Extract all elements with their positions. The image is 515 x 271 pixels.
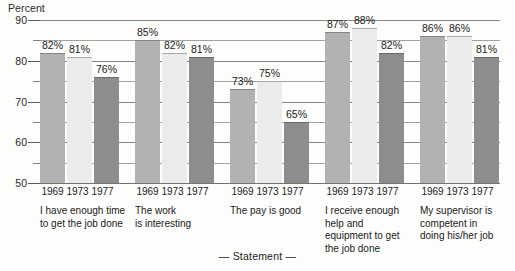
statement-line: The pay is good	[230, 205, 325, 218]
y-axis-tick-label: 60	[3, 137, 27, 148]
bar-1977-group2: 81%	[189, 57, 214, 183]
bar-1973-group4: 88%	[352, 28, 377, 183]
bar-fill	[189, 57, 214, 183]
bar-fill	[135, 40, 160, 183]
bar-value-label: 81%	[191, 44, 212, 55]
year-tick-labels: 196919731977	[40, 186, 135, 197]
statement-line: is interesting	[135, 218, 230, 231]
bar-1969-group3: 73%	[230, 89, 255, 183]
y-tick-90	[28, 20, 40, 21]
bar-fill	[162, 53, 187, 183]
bar-value-label: 86%	[449, 23, 470, 34]
bar-fill	[40, 53, 65, 183]
year-label: 1973	[65, 186, 90, 197]
bar-fill	[474, 57, 499, 183]
y-tick-50	[28, 183, 40, 184]
bar-value-label: 85%	[137, 27, 158, 38]
year-label: 1973	[445, 186, 470, 197]
y-axis-title: Percent	[8, 2, 45, 14]
bar-1973-group2: 82%	[162, 53, 187, 183]
year-tick-labels: 196919731977	[325, 186, 425, 197]
year-label: 1977	[185, 186, 210, 197]
x-group-label: 196919731977My supervisor iscompetent in…	[420, 186, 515, 243]
bar-1969-group4: 87%	[325, 32, 350, 183]
bar-value-label: 82%	[381, 40, 402, 51]
bar-group: 87%88%82%	[325, 20, 404, 183]
bar-value-label: 75%	[259, 68, 280, 79]
plot-area: 9080706050 82%81%76%85%82%81%73%75%65%87…	[40, 20, 500, 183]
bar-value-label: 81%	[476, 44, 497, 55]
bar-group: 86%86%81%	[420, 20, 499, 183]
year-label: 1973	[255, 186, 280, 197]
statement-line: competent in	[420, 218, 515, 231]
bar-fill	[379, 53, 404, 183]
bar-1977-group5: 81%	[474, 57, 499, 183]
bar-fill	[257, 81, 282, 183]
year-label: 1969	[40, 186, 65, 197]
bar-fill	[420, 36, 445, 183]
y-tick-minor-65	[33, 122, 40, 123]
year-label: 1977	[280, 186, 305, 197]
bar-1977-group4: 82%	[379, 53, 404, 183]
year-label: 1969	[420, 186, 445, 197]
statement-line: I have enough time	[40, 205, 135, 218]
year-tick-labels: 196919731977	[135, 186, 230, 197]
year-label: 1973	[160, 186, 185, 197]
statement-label: My supervisor iscompetent indoing his/he…	[420, 205, 515, 243]
y-axis-tick-label: 50	[3, 178, 27, 189]
year-label: 1977	[90, 186, 115, 197]
bar-1973-group5: 86%	[447, 36, 472, 183]
statement-line: doing his/her job	[420, 230, 515, 243]
bar-1977-group3: 65%	[284, 122, 309, 183]
bar-group: 85%82%81%	[135, 20, 214, 183]
y-tick-minor-55	[33, 163, 40, 164]
year-label: 1969	[230, 186, 255, 197]
statement-label: I have enough timeto get the job done	[40, 205, 135, 230]
x-axis-title: — Statement —	[0, 250, 515, 262]
x-group-label: 196919731977The workis interesting	[135, 186, 230, 230]
year-label: 1973	[350, 186, 375, 197]
y-tick-minor-85	[33, 40, 40, 41]
year-label: 1977	[375, 186, 400, 197]
x-group-label: 196919731977I receive enoughhelp andequi…	[325, 186, 425, 255]
bar-value-label: 88%	[354, 15, 375, 26]
bar-fill	[447, 36, 472, 183]
statement-line: I receive enough	[325, 205, 425, 218]
y-tick-60	[28, 142, 40, 143]
x-group-label: 196919731977The pay is good	[230, 186, 325, 218]
y-axis-tick-label: 70	[3, 97, 27, 108]
statement-label: I receive enoughhelp andequipment to get…	[325, 205, 425, 255]
bar-fill	[325, 32, 350, 183]
statement-line: to get the job done	[40, 218, 135, 231]
bar-value-label: 82%	[164, 40, 185, 51]
bar-fill	[284, 122, 309, 183]
x-group-label: 196919731977I have enough timeto get the…	[40, 186, 135, 230]
statement-line: The work	[135, 205, 230, 218]
bar-value-label: 76%	[96, 64, 117, 75]
statement-line: equipment to get	[325, 230, 425, 243]
y-axis-tick-label: 90	[3, 15, 27, 26]
year-label: 1969	[325, 186, 350, 197]
statement-line: help and	[325, 218, 425, 231]
y-tick-70	[28, 102, 40, 103]
bar-1977-group1: 76%	[94, 77, 119, 183]
bar-fill	[352, 28, 377, 183]
statement-label: The workis interesting	[135, 205, 230, 230]
bar-value-label: 81%	[69, 44, 90, 55]
bar-value-label: 82%	[42, 40, 63, 51]
year-tick-labels: 196919731977	[230, 186, 325, 197]
bar-group: 82%81%76%	[40, 20, 119, 183]
y-tick-minor-75	[33, 81, 40, 82]
y-tick-80	[28, 61, 40, 62]
bar-value-label: 87%	[327, 19, 348, 30]
year-label: 1969	[135, 186, 160, 197]
bar-1969-group1: 82%	[40, 53, 65, 183]
statement-label: The pay is good	[230, 205, 325, 218]
bar-1969-group5: 86%	[420, 36, 445, 183]
bar-value-label: 65%	[286, 109, 307, 120]
year-tick-labels: 196919731977	[420, 186, 515, 197]
bar-fill	[94, 77, 119, 183]
statement-line: My supervisor is	[420, 205, 515, 218]
bar-1973-group1: 81%	[67, 57, 92, 183]
bar-chart: Percent 9080706050 82%81%76%85%82%81%73%…	[0, 0, 515, 271]
